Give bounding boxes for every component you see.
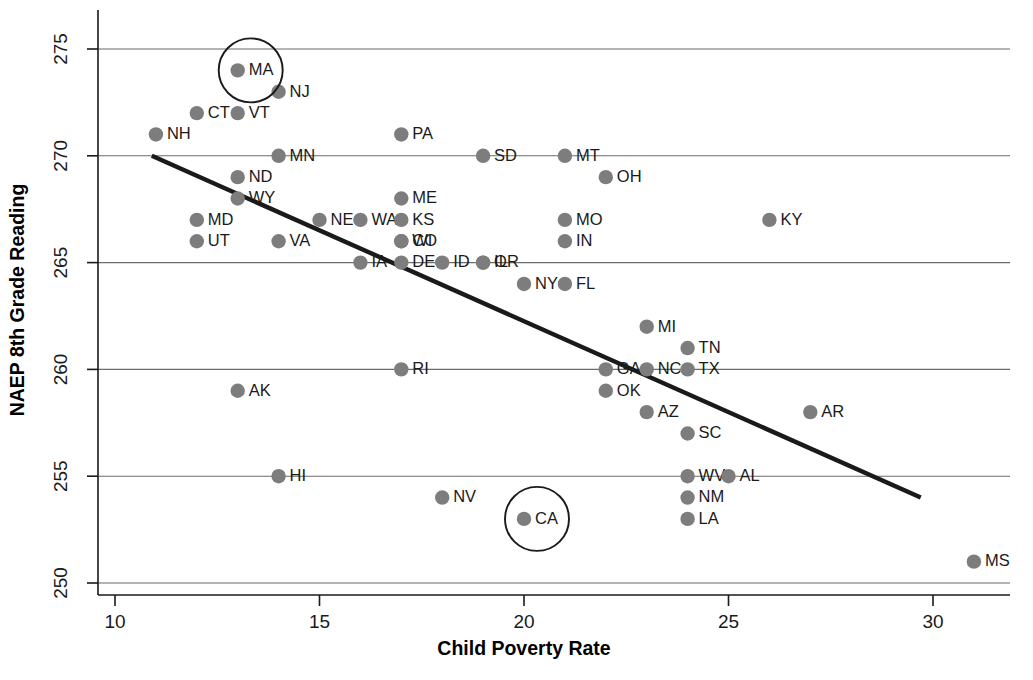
- data-point-label-sc: SC: [699, 423, 722, 441]
- x-axis-title: Child Poverty Rate: [437, 637, 611, 659]
- data-point-label-ma: MA: [249, 60, 274, 78]
- data-point-label-wa: WA: [371, 210, 397, 228]
- data-point-md[interactable]: [190, 213, 204, 227]
- data-point-hi[interactable]: [271, 469, 285, 483]
- y-tick-label-255: 255: [50, 460, 71, 492]
- tick-marks-group: [87, 49, 933, 606]
- data-point-in[interactable]: [558, 234, 572, 248]
- data-point-ri[interactable]: [394, 362, 408, 376]
- data-point-ny[interactable]: [517, 277, 531, 291]
- data-point-label-ar: AR: [821, 402, 844, 420]
- data-point-label-ri: RI: [412, 359, 429, 377]
- data-point-al[interactable]: [721, 469, 735, 483]
- data-point-vt[interactable]: [231, 106, 245, 120]
- data-point-nc[interactable]: [640, 362, 654, 376]
- data-point-mi[interactable]: [640, 319, 654, 333]
- data-point-label-ga: GA: [617, 359, 641, 377]
- data-point-de[interactable]: [394, 255, 408, 269]
- data-point-label-sd: SD: [494, 146, 517, 164]
- data-point-va[interactable]: [271, 234, 285, 248]
- data-point-label-ut: UT: [208, 231, 230, 249]
- data-point-sc[interactable]: [680, 426, 694, 440]
- data-point-label-az: AZ: [658, 402, 679, 420]
- data-point-mn[interactable]: [271, 149, 285, 163]
- data-point-label-de: DE: [412, 252, 435, 270]
- data-point-label-ny: NY: [535, 274, 558, 292]
- data-point-label-id: ID: [453, 252, 470, 270]
- x-tick-label-20: 20: [513, 611, 534, 632]
- data-point-ma[interactable]: [231, 63, 245, 77]
- data-point-ut[interactable]: [190, 234, 204, 248]
- data-point-ar[interactable]: [803, 405, 817, 419]
- data-point-label-pa: PA: [412, 124, 433, 142]
- y-tick-label-265: 265: [50, 247, 71, 279]
- data-point-label-fl: FL: [576, 274, 595, 292]
- data-point-label-mi: MI: [658, 317, 676, 335]
- data-point-label-ia: IA: [371, 252, 387, 270]
- data-point-ne[interactable]: [312, 213, 326, 227]
- data-points-group: MANJCTVTNHPAMNSDMTNDOHWYMEMDNEWAKSMOKYUT…: [149, 60, 1010, 569]
- data-point-label-tn: TN: [699, 338, 721, 356]
- data-point-label-ms: MS: [985, 551, 1010, 569]
- data-point-label-me: ME: [412, 188, 437, 206]
- y-tick-label-260: 260: [50, 354, 71, 386]
- gridlines-group: [98, 49, 1010, 583]
- data-point-label-nj: NJ: [290, 82, 310, 100]
- data-point-ga[interactable]: [599, 362, 613, 376]
- data-point-ct[interactable]: [190, 106, 204, 120]
- data-point-label-ct: CT: [208, 103, 230, 121]
- data-point-label-il: IL: [494, 252, 508, 270]
- data-point-label-ks: KS: [412, 210, 434, 228]
- data-point-label-wv: WV: [699, 466, 726, 484]
- data-point-ia[interactable]: [353, 255, 367, 269]
- data-point-mt[interactable]: [558, 149, 572, 163]
- data-point-wa[interactable]: [353, 213, 367, 227]
- data-point-ok[interactable]: [599, 384, 613, 398]
- data-point-id[interactable]: [435, 255, 449, 269]
- data-point-label-mt: MT: [576, 146, 600, 164]
- data-point-co[interactable]: [394, 234, 408, 248]
- data-point-ky[interactable]: [762, 213, 776, 227]
- data-point-label-tx: TX: [699, 359, 720, 377]
- data-point-label-mo: MO: [576, 210, 603, 228]
- data-point-label-nv: NV: [453, 487, 476, 505]
- data-point-la[interactable]: [680, 512, 694, 526]
- data-point-me[interactable]: [394, 191, 408, 205]
- data-point-label-ok: OK: [617, 381, 641, 399]
- data-point-ak[interactable]: [231, 384, 245, 398]
- data-point-az[interactable]: [640, 405, 654, 419]
- data-point-label-ne: NE: [331, 210, 354, 228]
- data-point-mo[interactable]: [558, 213, 572, 227]
- data-point-wy[interactable]: [231, 191, 245, 205]
- x-tick-label-25: 25: [718, 611, 739, 632]
- y-tick-label-250: 250: [50, 567, 71, 599]
- data-point-label-la: LA: [699, 509, 719, 527]
- data-point-il[interactable]: [476, 255, 490, 269]
- data-point-tx[interactable]: [680, 362, 694, 376]
- data-point-label-al: AL: [740, 466, 760, 484]
- data-point-wv[interactable]: [680, 469, 694, 483]
- data-point-oh[interactable]: [599, 170, 613, 184]
- data-point-fl[interactable]: [558, 277, 572, 291]
- data-point-label-va: VA: [290, 231, 311, 249]
- data-point-ks[interactable]: [394, 213, 408, 227]
- data-point-sd[interactable]: [476, 149, 490, 163]
- data-point-nd[interactable]: [231, 170, 245, 184]
- data-point-label-co: CO: [412, 231, 437, 249]
- data-point-pa[interactable]: [394, 127, 408, 141]
- data-point-label-nc: NC: [658, 359, 682, 377]
- data-point-label-wy: WY: [249, 188, 276, 206]
- data-point-label-hi: HI: [290, 466, 307, 484]
- x-tick-label-30: 30: [922, 611, 943, 632]
- data-point-nm[interactable]: [680, 490, 694, 504]
- x-tick-label-10: 10: [104, 611, 125, 632]
- data-point-label-mn: MN: [290, 146, 316, 164]
- data-point-ms[interactable]: [967, 554, 981, 568]
- data-point-tn[interactable]: [680, 341, 694, 355]
- data-point-nh[interactable]: [149, 127, 163, 141]
- y-axis-title: NAEP 8th Grade Reading: [6, 184, 28, 417]
- data-point-label-md: MD: [208, 210, 234, 228]
- data-point-label-ky: KY: [780, 210, 802, 228]
- data-point-ca[interactable]: [517, 512, 531, 526]
- data-point-nv[interactable]: [435, 490, 449, 504]
